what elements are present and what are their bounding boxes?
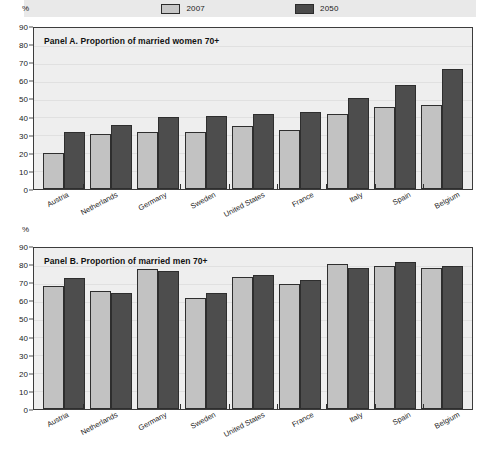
category-separator-a-6 [326,184,327,189]
panel-a-unit-symbol: % [22,4,29,13]
y-tick-label-a-40: 40 [8,113,28,122]
source-footnote [18,452,468,462]
y-tick-label-b-50: 50 [8,315,28,324]
category-separator-b-1 [83,404,84,409]
bar-a-france-2050 [300,112,321,189]
bar-a-united-states-2050 [253,114,274,189]
bar-b-sweden-2007 [185,298,206,409]
panel-b: % 0102030405060708090 Panel B. Proportio… [0,238,481,456]
x-label-b-italy: Italy [347,410,363,424]
category-separator-a-8 [423,184,424,189]
bar-b-germany-2050 [158,271,179,409]
bar-b-italy-2007 [327,264,348,409]
panel-b-title: Panel B. Proportion of married men 70+ [44,256,208,266]
bar-group-a-1 [87,28,134,189]
y-tick-label-b-80: 80 [8,261,28,270]
bar-group-b-4 [229,248,276,409]
y-tick-label-b-90: 90 [8,243,28,252]
bar-a-sweden-2007 [185,132,206,189]
bar-group-a-2 [135,28,182,189]
panel-a-plot-area: Panel A. Proportion of married women 70+ [33,27,473,190]
bar-b-france-2007 [279,284,300,409]
bar-group-b-0 [40,248,87,409]
x-label-a-germany: Germany [137,190,168,212]
x-label-a-italy: Italy [347,190,363,204]
y-tick-label-a-30: 30 [8,131,28,140]
y-tick-label-b-30: 30 [8,351,28,360]
x-label-b-germany: Germany [137,410,168,432]
y-tick-label-b-40: 40 [8,333,28,342]
category-separator-b-8 [423,404,424,409]
bar-group-a-8 [419,28,466,189]
panel-b-unit-symbol: % [22,225,29,234]
bar-group-a-5 [277,28,324,189]
x-label-b-netherlands: Netherlands [79,410,119,437]
bar-b-france-2050 [300,280,321,409]
bar-b-austria-2050 [64,278,85,409]
bar-group-b-2 [135,248,182,409]
x-label-a-spain: Spain [392,190,413,207]
y-tick-label-a-0: 0 [8,186,28,195]
panel-b-y-axis: 0102030405060708090 [0,247,33,410]
bar-b-netherlands-2050 [111,293,132,409]
bar-group-a-3 [182,28,229,189]
panel-a-bars [34,28,472,189]
bar-group-b-6 [324,248,371,409]
panel-a-plot-wrap: 0102030405060708090 Panel A. Proportion … [0,27,481,190]
legend-entry-2050: 2050 [295,4,339,14]
bar-b-spain-2050 [395,262,416,409]
bar-group-b-5 [277,248,324,409]
y-tick-label-a-80: 80 [8,41,28,50]
bar-a-netherlands-2007 [90,134,111,189]
bar-a-belgium-2050 [442,69,463,189]
bar-b-germany-2007 [137,269,158,409]
panel-a-title: Panel A. Proportion of married women 70+ [44,36,219,46]
category-separator-b-3 [180,404,181,409]
bar-group-b-7 [371,248,418,409]
bar-a-germany-2050 [158,117,179,189]
bar-a-austria-2007 [43,153,64,189]
x-label-a-france: France [290,190,315,209]
y-tick-label-a-70: 70 [8,59,28,68]
category-separator-b-4 [229,404,230,409]
x-label-b-sweden: Sweden [189,410,217,431]
x-label-b-united-states: United States [222,410,266,439]
category-separator-a-3 [180,184,181,189]
y-tick-label-a-60: 60 [8,77,28,86]
panel-b-bars [34,248,472,409]
legend-swatch-2050-icon [295,4,314,14]
bar-a-germany-2007 [137,132,158,189]
bar-b-belgium-2050 [442,266,463,409]
bar-group-a-6 [324,28,371,189]
panel-b-plot-area: Panel B. Proportion of married men 70+ [33,247,473,410]
bar-a-spain-2007 [374,107,395,189]
bar-group-a-7 [371,28,418,189]
category-separator-a-5 [277,184,278,189]
bar-group-b-8 [419,248,466,409]
y-tick-label-b-20: 20 [8,369,28,378]
bar-b-united-states-2050 [253,275,274,409]
panel-a-y-axis: 0102030405060708090 [0,27,33,190]
x-label-a-austria: Austria [46,190,71,209]
y-tick-label-a-90: 90 [8,23,28,32]
bar-b-belgium-2007 [421,268,442,409]
category-separator-b-5 [277,404,278,409]
bar-group-a-0 [40,28,87,189]
chart-legend: 2007 2050 [24,0,476,17]
bar-a-austria-2050 [64,132,85,189]
bar-a-united-states-2007 [232,126,253,189]
bar-a-spain-2050 [395,85,416,189]
x-label-a-netherlands: Netherlands [79,190,119,217]
category-separator-b-2 [131,404,132,409]
category-separator-b-6 [326,404,327,409]
y-tick-label-a-10: 10 [8,167,28,176]
panel-a: % 0102030405060708090 Panel A. Proportio… [0,18,481,233]
legend-entry-2007: 2007 [161,4,205,14]
y-tick-label-a-20: 20 [8,149,28,158]
y-tick-label-b-70: 70 [8,279,28,288]
bar-a-belgium-2007 [421,105,442,189]
category-separator-a-2 [131,184,132,189]
bar-group-b-1 [87,248,134,409]
bar-a-sweden-2050 [206,116,227,189]
x-label-b-france: France [290,410,315,429]
